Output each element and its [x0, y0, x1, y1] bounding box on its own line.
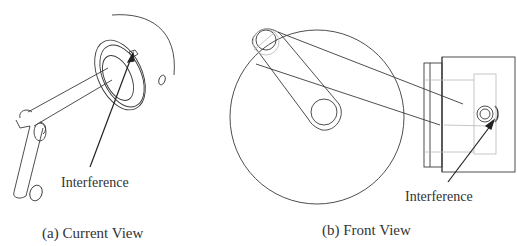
panel-a-drawing: [0, 0, 517, 246]
panel-b-interference-label: Interference: [405, 189, 473, 205]
panel-b-caption: (b) Front View: [322, 222, 411, 239]
panel-a-interference-label: Interference: [61, 175, 129, 191]
panel-a-caption: (a) Current View: [42, 225, 143, 242]
